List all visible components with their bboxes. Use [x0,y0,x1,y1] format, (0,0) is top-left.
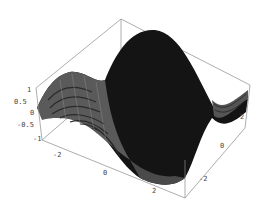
y-tick: 0 [220,142,224,150]
x-tick: -2 [53,151,61,159]
z-tick: 0.5 [14,98,27,106]
z-tick: 1 [27,86,31,94]
y-tick: 2 [240,113,244,121]
z-tick: 0 [30,109,34,117]
x-tick: 0 [103,169,107,177]
z-tick: -0.5 [17,121,34,129]
z-axis-ticks: 1 0.5 0 -0.5 -1 [14,86,41,143]
surface-plot: 1 0.5 0 -0.5 -1 -2 0 2 2 0 -2 [0,0,265,207]
x-tick: 2 [152,187,156,195]
z-tick: -1 [33,135,41,143]
y-tick: -2 [199,175,207,183]
